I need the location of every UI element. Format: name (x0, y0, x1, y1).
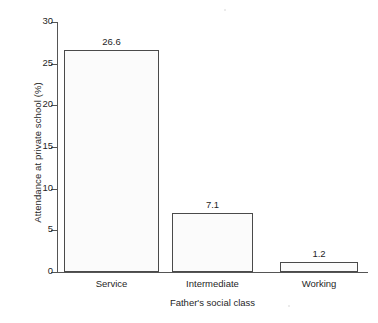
y-axis-title: Attendance at private school (%) (32, 38, 43, 268)
y-tick-label: 20 (42, 98, 53, 109)
y-axis-line (57, 22, 58, 273)
bar-value-label: 7.1 (206, 199, 219, 210)
y-tick-label: 25 (42, 57, 53, 68)
y-tick-label: 30 (42, 15, 53, 26)
x-axis-line (57, 272, 368, 273)
y-tick-label: 5 (48, 223, 53, 234)
bar-working: 1.2 (280, 262, 358, 272)
bar-chart-figure: Attendance at private school (%) 3025201… (0, 0, 378, 323)
y-tick-label: 15 (42, 140, 53, 151)
x-tick-label-intermediate: Intermediate (186, 278, 239, 289)
bar-intermediate: 7.1 (172, 213, 253, 272)
x-tick-label-working: Working (302, 278, 337, 289)
bar-value-label: 1.2 (312, 248, 325, 259)
x-axis-title: Father's social class (57, 297, 368, 308)
y-tick-label: 0 (48, 265, 53, 276)
plot-area: 302520151050 26.6Service7.1Intermediate1… (57, 22, 368, 272)
bar-group-working: 1.2Working (280, 22, 358, 272)
x-tick-label-service: Service (96, 278, 128, 289)
scan-speckle-icon (224, 9, 226, 11)
bar-value-label: 26.6 (102, 36, 121, 47)
bar-service: 26.6 (64, 50, 159, 272)
bar-group-intermediate: 7.1Intermediate (172, 22, 253, 272)
y-tick-label: 10 (42, 182, 53, 193)
bar-group-service: 26.6Service (64, 22, 159, 272)
